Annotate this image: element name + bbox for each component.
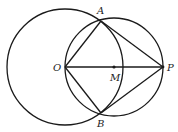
- label-b: B: [96, 118, 104, 129]
- point-p-dot: [162, 66, 165, 69]
- label-p: P: [166, 62, 174, 73]
- label-o: O: [53, 62, 61, 73]
- point-m-dot: [112, 65, 115, 68]
- label-a: A: [96, 5, 104, 16]
- segment-pa: [101, 21, 163, 67]
- label-m: M: [109, 72, 121, 83]
- geometry-diagram: A B O M P: [0, 0, 178, 132]
